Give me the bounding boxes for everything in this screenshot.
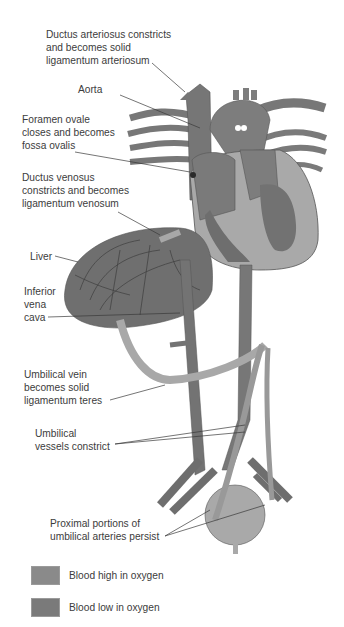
label-foramen-ovale: Foramen ovale closes and becomes fossa o… [22, 113, 115, 153]
label-umbilical-arteries: Proximal portions of umbilical arteries … [50, 517, 159, 543]
label-umbilical-vein: Umbilical vein becomes solid ligamentum … [24, 368, 102, 408]
label-ductus-arteriosus: Ductus arteriosus constricts and becomes… [46, 28, 171, 68]
label-umbilical-vessels: Umbilical vessels constrict [35, 427, 110, 453]
label-liver: Liver [30, 250, 52, 263]
legend-swatch-low-oxygen [31, 598, 60, 617]
right-atrium [192, 153, 235, 221]
legend-label-high-oxygen: Blood high in oxygen [69, 570, 164, 581]
legend-swatch-high-oxygen [31, 566, 60, 585]
legend-item-high-oxygen: Blood high in oxygen [31, 566, 164, 585]
legend-label-low-oxygen: Blood low in oxygen [69, 602, 160, 613]
label-aorta: Aorta [78, 83, 102, 96]
label-inferior-vena-cava: Inferior vena cava [24, 285, 56, 325]
label-ductus-venosus: Ductus venosus constricts and becomes li… [22, 171, 129, 211]
legend-item-low-oxygen: Blood low in oxygen [31, 598, 160, 617]
